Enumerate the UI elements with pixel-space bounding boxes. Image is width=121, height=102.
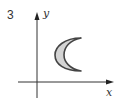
x-axis-arrow-icon	[106, 80, 114, 85]
y-axis-label: y	[42, 7, 50, 20]
coordinate-diagram: y x	[0, 0, 121, 102]
crescent-shape	[55, 38, 81, 71]
x-axis-label: x	[106, 86, 113, 99]
y-axis-arrow-icon	[35, 12, 40, 20]
